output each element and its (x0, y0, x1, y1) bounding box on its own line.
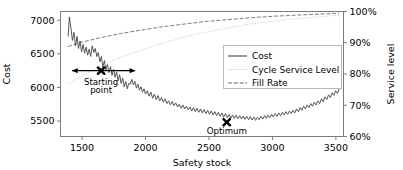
chart-canvas: 15002000250030003500 5500600065007000 60… (0, 0, 403, 170)
x-tick-label: 1500 (70, 142, 94, 153)
optimum-label: Optimum (207, 126, 247, 136)
y-tick-label: 6000 (30, 82, 54, 93)
y-axis-label: Cost (1, 63, 12, 84)
x-axis-label: Safety stock (173, 157, 232, 168)
x-tick-label: 2000 (133, 142, 157, 153)
y2-tick-label: 90% (350, 37, 371, 48)
y-axis-right-label: Service level (385, 44, 396, 105)
chart-legend: CostCycle Service LevelFill Rate (224, 46, 342, 89)
y-tick-label: 5500 (30, 115, 54, 126)
legend-label-cycle-service-level: Cycle Service Level (252, 65, 339, 75)
x-tick-label: 2500 (197, 142, 221, 153)
legend-label-fill-rate: Fill Rate (252, 78, 288, 88)
y2-tick-label: 70% (350, 100, 371, 111)
x-tick-label: 3500 (324, 142, 348, 153)
y2-tick-label: 60% (350, 131, 371, 142)
starting-point-label-line2: point (90, 85, 113, 95)
y2-tick-label: 80% (350, 68, 371, 79)
y2-tick-label: 100% (350, 6, 377, 17)
legend-label-cost: Cost (252, 51, 272, 61)
y-tick-label: 6500 (30, 48, 54, 59)
y-tick-label: 7000 (30, 15, 54, 26)
x-tick-label: 3000 (260, 142, 284, 153)
chart-figure: 15002000250030003500 5500600065007000 60… (0, 0, 403, 170)
